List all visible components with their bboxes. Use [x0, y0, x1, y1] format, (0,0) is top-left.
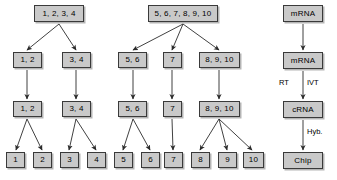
edges-group: [16, 24, 303, 150]
node-L-r2b: 3, 4: [62, 52, 91, 68]
node-R-r3b: 7: [163, 101, 182, 117]
edge-L-r1-to-L-r2b: [59, 24, 76, 50]
edge-L-r1-to-L-r2a: [27, 24, 59, 50]
node-L-l2: 2: [33, 152, 52, 168]
node-R-l9: 9: [218, 152, 237, 168]
node-R-r3c: 8, 9, 10: [199, 101, 240, 117]
edge-L-r3a-to-L-l1: [16, 119, 27, 150]
node-P-3: cRNA: [283, 101, 323, 118]
node-L-r2a: 1, 2: [13, 52, 42, 68]
edge-label-lbl-rt: RT: [279, 79, 289, 87]
node-P-4: Chip: [283, 152, 323, 169]
node-R-r1: 5, 6, 7, 8, 9, 10: [148, 5, 218, 22]
node-L-r3a: 1, 2: [13, 101, 42, 117]
node-L-l4: 4: [87, 152, 106, 168]
node-P-1: mRNA: [283, 5, 323, 22]
node-L-l3: 3: [60, 152, 79, 168]
edge-R-r3c-to-R-l8: [200, 119, 219, 150]
edge-L-r3b-to-L-l3: [69, 119, 76, 150]
node-R-r3a: 5, 6: [118, 101, 147, 117]
edge-R-r3c-to-R-l10: [219, 119, 252, 150]
node-L-l1: 1: [6, 152, 25, 168]
edge-R-r1-to-R-r2c: [183, 24, 219, 50]
node-R-l10: 10: [243, 152, 264, 168]
node-R-l6: 6: [141, 152, 160, 168]
edge-R-r3a-to-R-l5: [123, 119, 133, 150]
node-R-l8: 8: [191, 152, 210, 168]
node-L-r1: 1, 2, 3, 4: [34, 5, 84, 22]
node-R-r2a: 5, 6: [118, 52, 147, 68]
node-R-r2c: 8, 9, 10: [199, 52, 240, 68]
edge-R-r3b-to-R-l7: [172, 119, 173, 150]
node-R-l7: 7: [164, 152, 183, 168]
edge-R-r1-to-R-r2b: [172, 24, 183, 50]
edge-L-r3a-to-L-l2: [27, 119, 42, 150]
node-R-l5: 5: [114, 152, 133, 168]
edge-R-r3a-to-R-l6: [133, 119, 150, 150]
edge-label-lbl-hyb: Hyb.: [307, 128, 322, 136]
pooling-design-diagram: 1, 2, 3, 41, 23, 41, 23, 412345, 6, 7, 8…: [0, 0, 337, 180]
edge-R-r3c-to-R-l9: [219, 119, 227, 150]
edge-R-r1-to-R-r2a: [133, 24, 183, 50]
node-L-r3b: 3, 4: [62, 101, 91, 117]
edge-label-lbl-ivt: IVT: [307, 79, 319, 87]
node-P-2: mRNA: [283, 52, 323, 69]
node-R-r2b: 7: [163, 52, 182, 68]
edge-L-r3b-to-L-l4: [76, 119, 96, 150]
